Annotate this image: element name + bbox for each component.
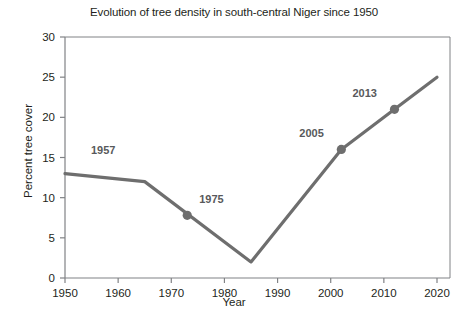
data-line <box>65 77 437 262</box>
y-tick-label: 0 <box>49 272 55 284</box>
y-tick-label: 15 <box>42 152 55 164</box>
data-point-label: 1957 <box>91 144 115 156</box>
y-tick-label: 20 <box>42 111 55 123</box>
x-tick-label: 1960 <box>105 287 131 299</box>
x-tick-label: 1970 <box>158 287 184 299</box>
data-point-label: 1975 <box>199 193 223 205</box>
axes <box>65 37 450 278</box>
data-point-marker <box>390 105 399 114</box>
y-tick-label: 10 <box>42 192 55 204</box>
x-tick-label: 2000 <box>318 287 344 299</box>
data-point-label: 2005 <box>299 127 323 139</box>
axis-ticks <box>60 37 437 283</box>
y-tick-label: 25 <box>42 71 55 83</box>
data-point-label: 2013 <box>352 87 376 99</box>
x-tick-label: 1950 <box>52 287 78 299</box>
y-tick-label: 5 <box>49 232 55 244</box>
data-point-marker <box>183 211 192 220</box>
x-tick-label: 1990 <box>265 287 291 299</box>
x-tick-label: 2010 <box>371 287 397 299</box>
y-tick-label: 30 <box>42 31 55 43</box>
x-tick-label: 1980 <box>212 287 238 299</box>
series-line <box>65 77 437 262</box>
data-point-labels: 1957197520052013 <box>91 87 377 205</box>
chart-figure: Evolution of tree density in south-centr… <box>0 0 468 322</box>
data-point-marker <box>337 145 346 154</box>
plot-area: 0510152025301950196019701980199020002010… <box>0 0 468 322</box>
x-tick-label: 2020 <box>424 287 450 299</box>
